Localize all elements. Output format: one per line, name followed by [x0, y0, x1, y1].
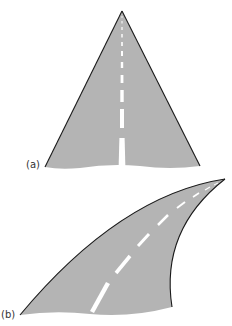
panel-a-straight-road: (a) — [26, 11, 200, 170]
road-perspective-figure: (a) (b) — [0, 0, 232, 326]
panel-b-curved-road: (b) — [1, 179, 225, 320]
panel-b-label: (b) — [1, 309, 15, 320]
panel-a-label: (a) — [26, 159, 40, 170]
road-b-surface — [20, 179, 225, 315]
